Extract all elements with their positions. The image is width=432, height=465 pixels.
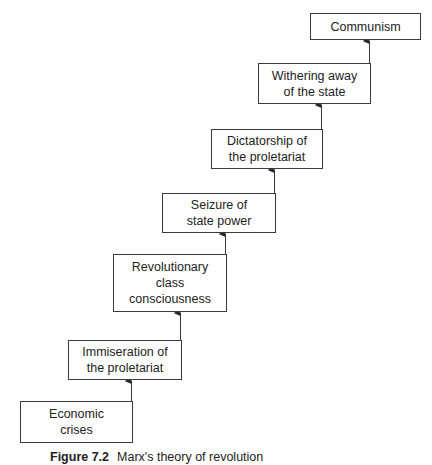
figure-caption: Figure 7.2Marx's theory of revolution [50,449,263,465]
step-communism: Communism [310,13,421,40]
step-withering-away: Withering away of the state [258,63,371,104]
step-economic-crises: Economic crises [20,401,133,443]
step-seizure-of-power: Seizure of state power [162,193,276,233]
figure-caption-text: Marx's theory of revolution [117,450,263,464]
step-dictatorship: Dictatorship of the proletariat [211,129,323,169]
figure-number: Figure 7.2 [50,450,109,464]
step-revolutionary-consciousness: Revolutionary class consciousness [113,254,227,312]
step-immiseration: Immiseration of the proletariat [68,340,182,380]
